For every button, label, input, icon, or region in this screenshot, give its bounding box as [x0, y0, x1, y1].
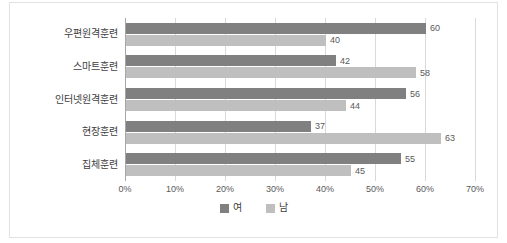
category-label-인터넷원격훈련: 인터넷원격훈련	[55, 94, 118, 106]
bar-row: 42	[126, 55, 475, 66]
legend-item-여[interactable]: 여	[220, 203, 242, 213]
bar-row: 40	[126, 35, 475, 46]
bar-여-집체훈련	[126, 153, 401, 164]
x-tick-label: 0%	[118, 184, 131, 194]
bar-row: 56	[126, 88, 475, 99]
bar-value-label: 37	[311, 121, 325, 131]
bar-value-label: 58	[416, 68, 430, 78]
x-tick-label: 40%	[316, 184, 334, 194]
x-tick-label: 30%	[266, 184, 284, 194]
bar-value-label: 56	[406, 89, 420, 99]
clipped-chart-title	[28, 0, 228, 6]
x-tick-label: 20%	[216, 184, 234, 194]
category-axis-labels: 우편원격훈련스마트훈련인터넷원격훈련현장훈련집체훈련	[0, 18, 118, 181]
x-tick-label: 60%	[416, 184, 434, 194]
bar-row: 63	[126, 133, 475, 144]
category-label-스마트훈련: 스마트훈련	[73, 61, 118, 73]
legend-label: 남	[279, 203, 288, 213]
bar-남-스마트훈련	[126, 67, 416, 78]
x-tick-label: 10%	[166, 184, 184, 194]
bar-row: 44	[126, 100, 475, 111]
legend-label: 여	[233, 203, 242, 213]
bar-value-label: 40	[326, 35, 340, 45]
bar-여-인터넷원격훈련	[126, 88, 406, 99]
category-label-집체훈련: 집체훈련	[82, 159, 118, 171]
bar-남-집체훈련	[126, 165, 351, 176]
bar-value-label: 45	[351, 166, 365, 176]
x-tick-label: 70%	[466, 184, 484, 194]
bar-value-label: 42	[336, 56, 350, 66]
bar-value-label: 55	[401, 154, 415, 164]
bar-남-현장훈련	[126, 133, 441, 144]
plot-area: 60404258564437635545	[125, 18, 475, 181]
bar-남-우편원격훈련	[126, 35, 326, 46]
bar-chart: 우편원격훈련스마트훈련인터넷원격훈련현장훈련집체훈련 6040425856443…	[0, 0, 507, 243]
bar-여-스마트훈련	[126, 55, 336, 66]
bar-row: 58	[126, 67, 475, 78]
category-label-현장훈련: 현장훈련	[82, 126, 118, 138]
bar-row: 60	[126, 23, 475, 34]
legend-swatch-icon	[220, 204, 229, 213]
bar-여-현장훈련	[126, 121, 311, 132]
bar-row: 45	[126, 165, 475, 176]
category-label-우편원격훈련: 우편원격훈련	[64, 28, 118, 40]
bar-value-label: 44	[346, 101, 360, 111]
bar-value-label: 60	[426, 23, 440, 33]
bar-남-인터넷원격훈련	[126, 100, 346, 111]
x-tick-label: 50%	[366, 184, 384, 194]
bar-여-우편원격훈련	[126, 23, 426, 34]
gridline	[475, 18, 476, 181]
legend-swatch-icon	[266, 204, 275, 213]
bar-row: 55	[126, 153, 475, 164]
bar-value-label: 63	[441, 133, 455, 143]
legend-item-남[interactable]: 남	[266, 203, 288, 213]
chart-legend: 여남	[0, 203, 507, 213]
value-axis-labels: 0%10%20%30%40%50%60%70%	[125, 184, 475, 198]
bar-row: 37	[126, 121, 475, 132]
